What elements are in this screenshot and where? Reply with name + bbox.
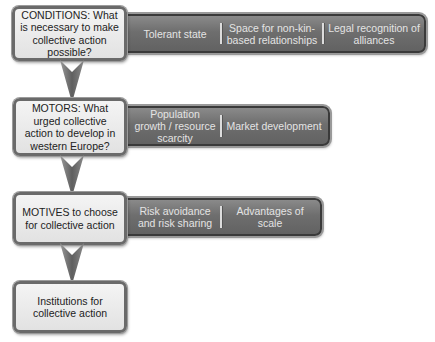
conditions-bar: Tolerant state Space for non-kin-based r… bbox=[118, 14, 426, 53]
motives-box: MOTIVES to choose for collective action bbox=[13, 192, 127, 245]
conditions-box: CONDITIONS: What is necessary to make co… bbox=[12, 6, 127, 61]
motors-bar: Population growth / resource scarcity Ma… bbox=[118, 106, 330, 146]
down-arrow-icon bbox=[59, 243, 85, 283]
down-arrow-icon bbox=[59, 155, 85, 195]
motives-item-risk: Risk avoidance and risk sharing bbox=[130, 200, 220, 234]
motives-item-scale: Advantages of scale bbox=[222, 200, 318, 234]
conditions-item-tolerant-state: Tolerant state bbox=[130, 16, 220, 51]
motors-item-population: Population growth / resource scarcity bbox=[130, 108, 220, 144]
conditions-item-legal: Legal recognition of alliances bbox=[324, 16, 424, 51]
down-arrow-icon bbox=[59, 60, 85, 100]
motives-bar: Risk avoidance and risk sharing Advantag… bbox=[118, 198, 322, 236]
motors-box: MOTORS: What urged collective action to … bbox=[13, 98, 127, 156]
institutions-box: Institutions for collective action bbox=[13, 281, 127, 333]
conditions-item-space: Space for non-kin-based relationships bbox=[222, 16, 322, 51]
motors-item-market: Market development bbox=[222, 108, 326, 144]
